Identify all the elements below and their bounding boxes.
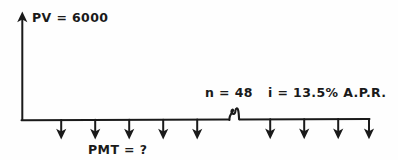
cash-flow-diagram: PV = 6000 n = 48 i = 13.5% A.P.R. PMT = … <box>0 0 398 160</box>
payment-label: PMT = ? <box>88 142 147 157</box>
present-value-arrow <box>17 12 27 121</box>
timeline-axis <box>22 119 370 120</box>
payment-arrow-group-before-break <box>56 120 202 140</box>
payment-arrow <box>333 119 343 139</box>
payment-arrow <box>265 119 275 139</box>
payment-arrow <box>158 120 168 140</box>
payment-arrow-group-after-break <box>265 119 374 139</box>
payment-arrow <box>124 120 134 140</box>
cash-flow-timeline-graphic: PV = 6000 n = 48 i = 13.5% A.P.R. PMT = … <box>0 0 398 160</box>
payment-arrow <box>192 120 202 140</box>
payment-arrow <box>56 120 66 139</box>
payment-arrow <box>364 119 374 139</box>
timeline-break-icon <box>229 108 239 120</box>
payment-arrow <box>90 120 100 140</box>
payment-arrow <box>299 119 309 139</box>
present-value-label: PV = 6000 <box>32 10 108 25</box>
periods-label: n = 48 <box>205 85 253 100</box>
interest-rate-label: i = 13.5% A.P.R. <box>268 85 386 100</box>
